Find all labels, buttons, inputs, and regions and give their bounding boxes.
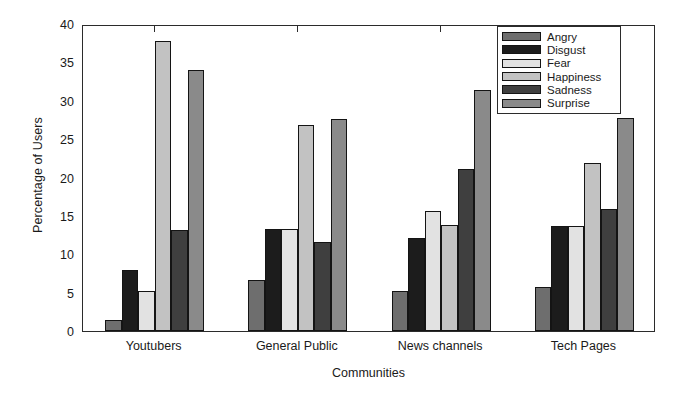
bar xyxy=(408,238,425,331)
legend-label: Angry xyxy=(547,31,577,43)
y-tick-label: 15 xyxy=(38,210,74,224)
bar xyxy=(265,229,282,331)
y-tick-label: 20 xyxy=(38,172,74,186)
bar xyxy=(617,118,634,331)
y-tick-label: 40 xyxy=(38,18,74,32)
bar xyxy=(474,90,491,331)
bar xyxy=(248,280,265,331)
legend-item: Fear xyxy=(502,57,616,70)
bar xyxy=(441,225,458,331)
y-tick-label: 35 xyxy=(38,56,74,70)
x-tick-mark-top xyxy=(440,25,441,32)
bar xyxy=(535,287,552,332)
bar xyxy=(155,41,172,331)
bar xyxy=(105,320,122,332)
bar xyxy=(138,291,155,331)
bar xyxy=(458,169,475,331)
legend-swatch xyxy=(502,45,541,54)
x-tick-label: Tech Pages xyxy=(551,339,616,353)
y-tick-label: 0 xyxy=(38,325,74,339)
legend-swatch xyxy=(502,72,541,81)
x-tick-label: News channels xyxy=(398,339,483,353)
bar xyxy=(281,229,298,331)
bar xyxy=(425,211,442,331)
y-tick-label: 5 xyxy=(38,287,74,301)
legend-label: Disgust xyxy=(547,44,585,56)
bar xyxy=(392,291,409,331)
bar xyxy=(331,119,348,331)
legend-swatch xyxy=(502,59,541,68)
legend-swatch xyxy=(502,99,541,108)
legend-item: Disgust xyxy=(502,43,616,56)
legend-item: Angry xyxy=(502,30,616,43)
x-tick-label: General Public xyxy=(256,339,338,353)
x-axis-title: Communities xyxy=(82,366,655,380)
legend-label: Fear xyxy=(547,57,571,69)
y-tick-label: 25 xyxy=(38,133,74,147)
y-tick-label: 10 xyxy=(38,248,74,262)
bar xyxy=(188,70,205,331)
y-tick-label: 30 xyxy=(38,95,74,109)
bar xyxy=(568,226,585,331)
bar xyxy=(298,125,315,331)
bar xyxy=(601,209,618,331)
legend-item: Sadness xyxy=(502,83,616,96)
legend-label: Surprise xyxy=(547,97,590,109)
legend-label: Sadness xyxy=(547,84,592,96)
x-tick-label: Youtubers xyxy=(126,339,182,353)
legend-swatch xyxy=(502,85,541,94)
legend-label: Happiness xyxy=(547,71,601,83)
legend-swatch xyxy=(502,32,541,41)
x-tick-mark-top xyxy=(154,25,155,32)
bar xyxy=(584,163,601,331)
bar xyxy=(122,270,139,331)
legend: AngryDisgustFearHappinessSadnessSurprise xyxy=(497,26,621,114)
bar-chart: Percentage of Users 0510152025303540 You… xyxy=(0,0,689,393)
legend-item: Happiness xyxy=(502,70,616,83)
bar xyxy=(314,242,331,331)
legend-item: Surprise xyxy=(502,96,616,109)
bar xyxy=(171,230,188,331)
x-tick-mark-top xyxy=(297,25,298,32)
bar xyxy=(551,226,568,331)
